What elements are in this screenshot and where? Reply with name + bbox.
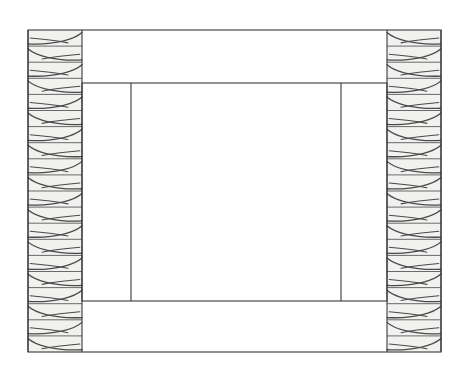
technical-drawing — [0, 0, 470, 369]
right-hatched-member — [387, 30, 441, 352]
interior-fill-group — [28, 30, 441, 352]
left-hatched-member — [28, 30, 82, 352]
outer-boundary-fill — [28, 30, 441, 352]
drawing-canvas — [0, 0, 470, 369]
